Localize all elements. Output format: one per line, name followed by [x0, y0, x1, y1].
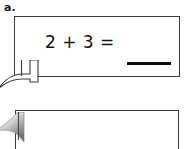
equation-text: 2 + 3 =: [45, 32, 115, 52]
speech-bubble-tail-icon-one: [0, 60, 40, 94]
answer-blank-line[interactable]: [127, 62, 171, 65]
problem-label: a.: [4, 1, 16, 14]
callout-box-two: [15, 110, 179, 149]
worksheet-page: a. 2 + 3 =: [0, 0, 185, 149]
speech-bubble-tail-icon-two: [0, 112, 36, 149]
